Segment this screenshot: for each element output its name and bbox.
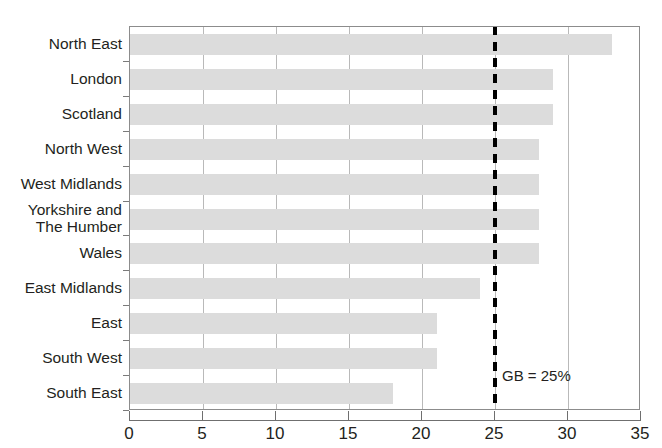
bar — [130, 174, 539, 195]
y-axis-label: Scotland — [0, 105, 122, 122]
y-axis-label: East Midlands — [0, 279, 122, 296]
x-axis-tick-label: 20 — [412, 424, 431, 444]
y-axis-label: London — [0, 70, 122, 87]
bar — [130, 139, 539, 160]
y-axis-label: Wales — [0, 244, 122, 261]
y-axis-tick — [123, 201, 129, 202]
x-axis-tick-label: 15 — [339, 424, 358, 444]
x-axis-tick-label: 35 — [631, 424, 650, 444]
y-axis-tick — [123, 340, 129, 341]
x-axis-tick — [494, 411, 495, 421]
bar — [130, 209, 539, 230]
x-axis-tick — [275, 411, 276, 421]
gb-reference-line — [493, 27, 497, 409]
y-axis-tick — [123, 96, 129, 97]
x-axis-tick — [202, 411, 203, 421]
gb-reference-label: GB = 25% — [502, 367, 571, 384]
y-axis-label: South East — [0, 384, 122, 401]
y-axis-tick — [123, 131, 129, 132]
y-axis-label: North East — [0, 35, 122, 52]
y-axis-tick — [123, 166, 129, 167]
plot-area: GB = 25% — [129, 26, 640, 410]
y-axis-tick — [123, 270, 129, 271]
y-axis-tick — [123, 375, 129, 376]
y-axis-label: East — [0, 314, 122, 331]
y-axis-label: South West — [0, 349, 122, 366]
x-axis-tick-label: 25 — [485, 424, 504, 444]
x-axis-tick-label: 5 — [197, 424, 206, 444]
x-axis-tick — [348, 411, 349, 421]
x-axis-tick-label: 10 — [266, 424, 285, 444]
y-axis-tick — [123, 235, 129, 236]
y-axis-tick — [123, 305, 129, 306]
x-axis-line — [129, 420, 640, 421]
x-axis-tick — [129, 411, 130, 421]
y-axis-tick — [123, 410, 129, 411]
y-axis-labels: North EastLondonScotlandNorth WestWest M… — [0, 26, 122, 410]
bar — [130, 69, 553, 90]
x-axis-tick-label: 30 — [558, 424, 577, 444]
y-axis-tick — [123, 61, 129, 62]
bar — [130, 243, 539, 264]
bar — [130, 348, 437, 369]
chart-container: North EastLondonScotlandNorth WestWest M… — [0, 0, 662, 448]
x-axis-tick-label: 0 — [124, 424, 133, 444]
x-axis-tick — [567, 411, 568, 421]
x-axis-tick — [421, 411, 422, 421]
x-axis-tick — [640, 411, 641, 421]
bar — [130, 313, 437, 334]
y-axis-label: North West — [0, 140, 122, 157]
y-axis-label: West Midlands — [0, 175, 122, 192]
gridline-30 — [568, 27, 569, 409]
bar — [130, 278, 480, 299]
bar — [130, 383, 393, 404]
plot-inner: GB = 25% — [130, 27, 639, 409]
bar — [130, 34, 612, 55]
bar — [130, 104, 553, 125]
y-axis-label: Yorkshire and The Humber — [0, 201, 122, 235]
